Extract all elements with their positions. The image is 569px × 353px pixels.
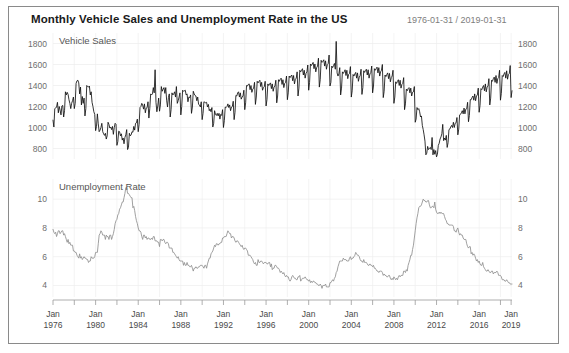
y-tick-label-left: 1400 [28, 81, 47, 91]
y-tick-label-right: 4 [518, 280, 523, 290]
x-tick-label-month: Jan [174, 309, 188, 319]
y-tick-label-right: 10 [518, 194, 528, 204]
axes [53, 300, 512, 305]
x-tick-label-month: Jan [89, 309, 103, 319]
y-tick-label-left: 6 [42, 252, 47, 262]
x-tick-label-year: 1980 [86, 320, 105, 330]
y-tick-label-right: 1400 [518, 81, 537, 91]
y-tick-label-right: 1000 [518, 123, 537, 133]
y-tick-label-left: 1800 [28, 39, 47, 49]
x-tick-label-month: Jan [344, 309, 358, 319]
plot-area: 8008001000100012001200140014001600160018… [9, 7, 558, 343]
y-tick-label-left: 4 [42, 280, 47, 290]
y-tick-label-right: 8 [518, 223, 523, 233]
y-tick-label-left: 1200 [28, 102, 47, 112]
x-tick-label-month: Jan [472, 309, 486, 319]
data-series [53, 41, 512, 288]
x-tick-label-year: 1984 [129, 320, 148, 330]
x-tick-label-month: Jan [387, 309, 401, 319]
chart-frame: Monthly Vehicle Sales and Unemployment R… [8, 6, 559, 344]
y-tick-label-left: 1000 [28, 123, 47, 133]
y-tick-label-right: 1800 [518, 39, 537, 49]
unemployment-rate-line [53, 188, 512, 289]
x-tick-label-month: Jan [46, 309, 60, 319]
x-tick-label-year: 1976 [44, 320, 63, 330]
x-tick-label-year: 1992 [214, 320, 233, 330]
y-tick-label-right: 1600 [518, 60, 537, 70]
y-tick-label-left: 8 [42, 223, 47, 233]
x-tick-label-month: Jan [131, 309, 145, 319]
y-tick-label-right: 6 [518, 252, 523, 262]
x-tick-label-year: 2000 [299, 320, 318, 330]
y-tick-label-right: 800 [518, 144, 532, 154]
x-tick-label-month: Jan [217, 309, 231, 319]
gridlines [53, 33, 512, 297]
panel-name-label: Vehicle Sales [59, 35, 116, 46]
x-tick-label-month: Jan [259, 309, 273, 319]
vehicle-sales-line [53, 41, 512, 156]
panel-name-label: Unemployment Rate [59, 181, 146, 192]
x-tick-label-year: 2019 [502, 320, 521, 330]
x-tick-label-year: 2016 [470, 320, 489, 330]
y-tick-label-left: 1600 [28, 60, 47, 70]
x-tick-label-month: Jan [302, 309, 316, 319]
x-tick-label-year: 1996 [257, 320, 276, 330]
y-tick-label-left: 800 [33, 144, 47, 154]
y-tick-label-right: 1200 [518, 102, 537, 112]
y-tick-label-left: 10 [38, 194, 48, 204]
x-tick-label-year: 2012 [427, 320, 446, 330]
x-tick-label-year: 2008 [384, 320, 403, 330]
x-tick-label-month: Jan [504, 309, 518, 319]
x-tick-label-month: Jan [430, 309, 444, 319]
x-tick-label-year: 1988 [171, 320, 190, 330]
x-tick-label-year: 2004 [342, 320, 361, 330]
